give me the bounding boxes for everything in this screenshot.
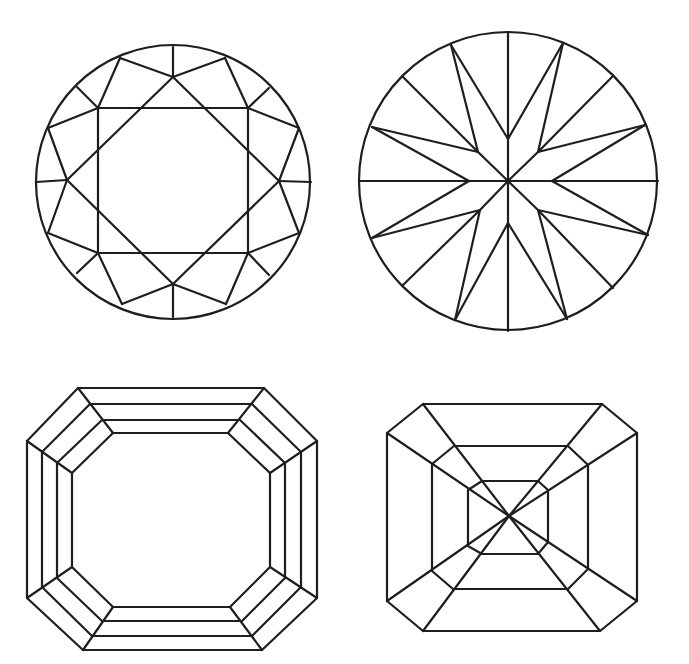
facet-edge bbox=[552, 125, 645, 181]
facet-edge bbox=[508, 43, 563, 139]
facet-edge bbox=[552, 181, 648, 235]
facet-edge bbox=[27, 388, 317, 650]
facet-edge bbox=[403, 77, 508, 181]
facet-edge bbox=[248, 253, 269, 275]
facet-edge bbox=[72, 433, 270, 607]
facet-edge bbox=[538, 125, 645, 152]
facet-edge bbox=[509, 516, 600, 631]
facet-edge bbox=[83, 607, 113, 650]
gem-cut-diagram-canvas bbox=[0, 0, 689, 664]
facet-edge bbox=[455, 223, 508, 320]
gem-cut-diagrams bbox=[0, 0, 689, 664]
round-brilliant-pavilion-diagram bbox=[359, 32, 658, 331]
facet-edge bbox=[57, 420, 285, 621]
facet-edge bbox=[36, 180, 67, 182]
facet-edge bbox=[48, 233, 122, 304]
facet-edge bbox=[508, 77, 612, 181]
facet-edge bbox=[508, 223, 567, 319]
facet-edge bbox=[279, 181, 311, 182]
facet-edge bbox=[451, 45, 478, 152]
facet-edge bbox=[455, 210, 480, 320]
facet-edge bbox=[372, 127, 469, 181]
facet-edge bbox=[225, 58, 299, 128]
facet-edge bbox=[538, 43, 563, 152]
facet-edge bbox=[372, 210, 480, 238]
facet-edge bbox=[248, 88, 269, 108]
facet-edge bbox=[77, 253, 98, 273]
facet-edge bbox=[403, 181, 508, 285]
facet-edge bbox=[372, 181, 469, 238]
emerald-cut-crown-diagram bbox=[27, 388, 317, 650]
facet-edge bbox=[508, 181, 613, 288]
facet-edge bbox=[538, 210, 648, 235]
facet-edge bbox=[372, 127, 478, 152]
round-brilliant-crown-diagram bbox=[36, 45, 311, 319]
facet-edge bbox=[230, 607, 262, 650]
facet-edge bbox=[451, 45, 508, 139]
emerald-cut-pavilion-diagram bbox=[387, 404, 637, 631]
facet-edge bbox=[77, 87, 98, 108]
